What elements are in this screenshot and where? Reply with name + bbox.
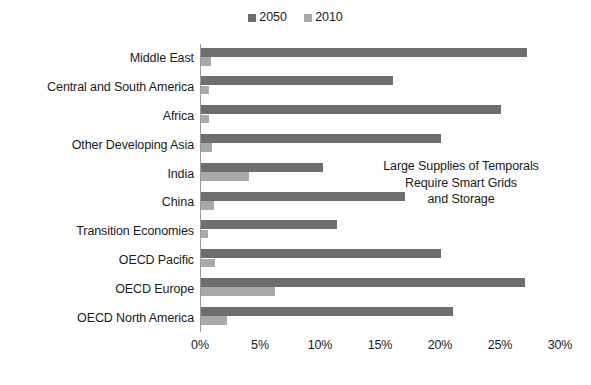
bar-2010 (201, 287, 275, 296)
bar-group (201, 102, 561, 131)
annotation-line-1: Large Supplies of Temporals (345, 158, 577, 175)
bar-2010 (201, 259, 215, 268)
x-tick-label: 5% (251, 338, 269, 352)
bar-2010 (201, 230, 208, 239)
bar-group (201, 274, 561, 303)
bar-2050 (201, 307, 453, 316)
x-tick-label: 10% (308, 338, 333, 352)
annotation-line-3: and Storage (345, 191, 577, 208)
y-axis-category-labels: Middle EastCentral and South AmericaAfri… (0, 44, 194, 332)
bar-2050 (201, 105, 501, 114)
y-axis-label: OECD North America (2, 311, 194, 325)
legend-item-2010: 2010 (304, 10, 342, 24)
legend-label-2010: 2010 (315, 10, 342, 24)
x-tick-label: 15% (368, 338, 393, 352)
legend-swatch-2010 (304, 14, 312, 22)
bar-2010 (201, 86, 209, 95)
y-axis-label: Africa (2, 109, 194, 123)
bar-2010 (201, 57, 211, 66)
x-tick-label: 25% (488, 338, 513, 352)
x-axis-tick-labels: 0%5%10%15%20%25%30% (200, 338, 560, 356)
x-tick-label: 20% (428, 338, 453, 352)
y-axis-label: OECD Pacific (2, 253, 194, 267)
chart-annotation: Large Supplies of Temporals Require Smar… (345, 158, 577, 208)
bar-2050 (201, 220, 337, 229)
bar-2010 (201, 143, 212, 152)
bar-2050 (201, 249, 441, 258)
chart-legend: 2050 2010 (0, 9, 591, 24)
y-axis-label: China (2, 195, 194, 209)
y-axis-label: OECD Europe (2, 282, 194, 296)
annotation-line-2: Require Smart Grids (345, 175, 577, 192)
bar-2050 (201, 134, 441, 143)
bar-group (201, 130, 561, 159)
bar-2010 (201, 115, 209, 124)
bar-group (201, 44, 561, 73)
bar-group (201, 246, 561, 275)
y-axis-label: Other Developing Asia (2, 138, 194, 152)
bar-group (201, 217, 561, 246)
y-axis-label: Middle East (2, 51, 194, 65)
bar-group (201, 73, 561, 102)
bar-group (201, 303, 561, 332)
bar-2050 (201, 48, 527, 57)
legend-label-2050: 2050 (259, 10, 286, 24)
bar-chart: 2050 2010 Middle EastCentral and South A… (0, 0, 591, 385)
y-axis-label: Central and South America (2, 80, 194, 94)
bar-2050 (201, 278, 525, 287)
bar-2010 (201, 201, 214, 210)
y-axis-label: India (2, 167, 194, 181)
y-axis-label: Transition Economies (2, 224, 194, 238)
bar-2010 (201, 316, 227, 325)
legend-swatch-2050 (248, 14, 256, 22)
bar-2050 (201, 76, 393, 85)
bar-2010 (201, 172, 249, 181)
bar-2050 (201, 163, 323, 172)
x-tick-label: 0% (191, 338, 209, 352)
legend-item-2050: 2050 (248, 10, 286, 24)
x-tick-label: 30% (548, 338, 573, 352)
